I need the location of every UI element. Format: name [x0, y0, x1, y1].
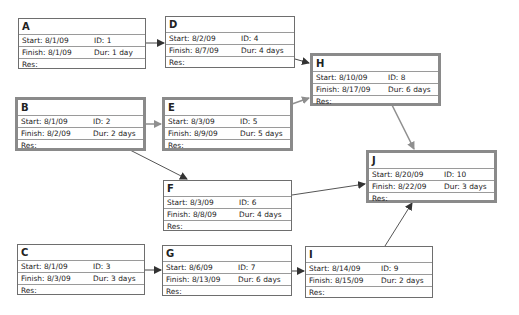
- resources: Res:: [316, 96, 332, 107]
- finish-row: Finish: 8/7/09Dur: 4 days: [166, 45, 294, 57]
- finish-date: Finish: 8/13/09: [166, 274, 238, 285]
- start-date: Start: 8/1/09: [21, 116, 93, 127]
- task-name: H: [313, 56, 438, 72]
- resource-row: Res:: [306, 287, 432, 298]
- start-row: Start: 8/3/09ID: 6: [164, 197, 291, 209]
- resource-row: Res:: [18, 285, 144, 296]
- link-d-h: [295, 59, 309, 63]
- task-name: B: [18, 100, 143, 116]
- task-node-g[interactable]: G Start: 8/6/09ID: 7 Finish: 8/13/09Dur:…: [162, 245, 292, 296]
- task-id: ID: 2: [93, 116, 143, 127]
- task-id: ID: 4: [241, 33, 294, 44]
- task-id: ID: 7: [238, 262, 291, 273]
- start-row: Start: 8/1/09ID: 3: [18, 261, 144, 273]
- finish-row: Finish: 8/3/09Dur: 3 days: [18, 273, 144, 285]
- resource-row: Res:: [19, 59, 145, 70]
- resources: Res:: [372, 193, 388, 204]
- task-node-e[interactable]: E Start: 8/3/09ID: 5 Finish: 8/9/09Dur: …: [162, 97, 293, 151]
- finish-row: Finish: 8/15/09Dur: 2 days: [306, 275, 432, 287]
- resource-row: Res:: [313, 96, 438, 107]
- finish-date: Finish: 8/1/09: [22, 47, 94, 58]
- finish-date: Finish: 8/9/09: [168, 128, 240, 139]
- link-h-j: [392, 105, 414, 149]
- duration: Dur: 4 days: [239, 209, 291, 220]
- task-name: C: [18, 245, 144, 261]
- task-node-c[interactable]: C Start: 8/1/09ID: 3 Finish: 8/3/09Dur: …: [17, 244, 145, 295]
- duration: Dur: 4 days: [241, 45, 294, 56]
- start-date: Start: 8/10/09: [316, 72, 388, 83]
- resource-row: Res:: [166, 57, 294, 68]
- duration: Dur: 5 days: [240, 128, 290, 139]
- start-row: Start: 8/20/09ID: 10: [369, 169, 494, 181]
- start-row: Start: 8/6/09ID: 7: [163, 262, 291, 274]
- start-date: Start: 8/14/09: [309, 263, 381, 274]
- finish-row: Finish: 8/1/09Dur: 1 day: [19, 47, 145, 59]
- start-date: Start: 8/1/09: [21, 261, 93, 272]
- start-row: Start: 8/1/09ID: 1: [19, 35, 145, 47]
- finish-row: Finish: 8/2/09Dur: 2 days: [18, 128, 143, 140]
- finish-date: Finish: 8/15/09: [309, 275, 381, 286]
- finish-row: Finish: 8/9/09Dur: 5 days: [165, 128, 290, 140]
- task-id: ID: 10: [444, 169, 494, 180]
- finish-row: Finish: 8/22/09Dur: 3 days: [369, 181, 494, 193]
- start-row: Start: 8/10/09ID: 8: [313, 72, 438, 84]
- start-date: Start: 8/1/09: [22, 35, 94, 46]
- duration: Dur: 1 day: [94, 47, 145, 58]
- task-id: ID: 3: [93, 261, 144, 272]
- task-node-j[interactable]: J Start: 8/20/09ID: 10 Finish: 8/22/09Du…: [366, 150, 497, 203]
- task-node-d[interactable]: D Start: 8/2/09ID: 4 Finish: 8/7/09Dur: …: [165, 16, 295, 68]
- resources: Res:: [166, 286, 182, 297]
- task-id: ID: 8: [388, 72, 438, 83]
- task-id: ID: 1: [94, 35, 145, 46]
- task-id: ID: 9: [381, 263, 432, 274]
- start-row: Start: 8/14/09ID: 9: [306, 263, 432, 275]
- resource-row: Res:: [163, 286, 291, 297]
- resources: Res:: [168, 140, 184, 151]
- finish-row: Finish: 8/13/09Dur: 6 days: [163, 274, 291, 286]
- duration: Dur: 6 days: [388, 84, 438, 95]
- start-date: Start: 8/20/09: [372, 169, 444, 180]
- task-name: F: [164, 181, 291, 197]
- task-node-f[interactable]: F Start: 8/3/09ID: 6 Finish: 8/8/09Dur: …: [163, 180, 292, 231]
- finish-row: Finish: 8/8/09Dur: 4 days: [164, 209, 291, 221]
- resources: Res:: [169, 57, 185, 68]
- start-row: Start: 8/3/09ID: 5: [165, 116, 290, 128]
- task-node-i[interactable]: I Start: 8/14/09ID: 9 Finish: 8/15/09Dur…: [305, 246, 433, 298]
- resources: Res:: [21, 285, 37, 296]
- task-name: D: [166, 17, 294, 33]
- task-node-b[interactable]: B Start: 8/1/09ID: 2 Finish: 8/2/09Dur: …: [15, 97, 146, 151]
- link-i-j: [385, 203, 412, 246]
- finish-date: Finish: 8/3/09: [21, 273, 93, 284]
- task-id: ID: 6: [239, 197, 291, 208]
- finish-date: Finish: 8/7/09: [169, 45, 241, 56]
- resource-row: Res:: [165, 140, 290, 151]
- duration: Dur: 3 days: [93, 273, 144, 284]
- resources: Res:: [22, 59, 38, 70]
- resources: Res:: [309, 287, 325, 298]
- start-date: Start: 8/2/09: [169, 33, 241, 44]
- finish-date: Finish: 8/22/09: [372, 181, 444, 192]
- task-node-h[interactable]: H Start: 8/10/09ID: 8 Finish: 8/17/09Dur…: [310, 53, 441, 106]
- resource-row: Res:: [369, 193, 494, 204]
- duration: Dur: 2 days: [93, 128, 143, 139]
- task-name: J: [369, 153, 494, 169]
- resources: Res:: [21, 140, 37, 151]
- task-node-a[interactable]: A Start: 8/1/09ID: 1 Finish: 8/1/09Dur: …: [18, 18, 146, 69]
- link-b-f: [130, 150, 187, 179]
- task-id: ID: 5: [240, 116, 290, 127]
- task-name: E: [165, 100, 290, 116]
- link-e-h: [292, 98, 309, 104]
- task-name: G: [163, 246, 291, 262]
- duration: Dur: 6 days: [238, 274, 291, 285]
- start-row: Start: 8/1/09ID: 2: [18, 116, 143, 128]
- resources: Res:: [167, 221, 183, 232]
- start-date: Start: 8/3/09: [167, 197, 239, 208]
- finish-row: Finish: 8/17/09Dur: 6 days: [313, 84, 438, 96]
- start-date: Start: 8/6/09: [166, 262, 238, 273]
- duration: Dur: 2 days: [381, 275, 432, 286]
- resource-row: Res:: [164, 221, 291, 232]
- duration: Dur: 3 days: [444, 181, 494, 192]
- finish-date: Finish: 8/8/09: [167, 209, 239, 220]
- start-row: Start: 8/2/09ID: 4: [166, 33, 294, 45]
- resource-row: Res:: [18, 140, 143, 151]
